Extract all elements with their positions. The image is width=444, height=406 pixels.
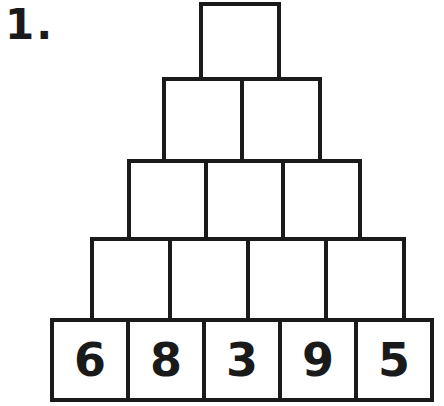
pyramid-cell-r3c2[interactable] — [204, 159, 285, 241]
worksheet-canvas: 1. 6 8 3 9 5 — [0, 0, 444, 406]
pyramid-cell-r5c5: 5 — [354, 318, 434, 402]
problem-number: 1. — [5, 4, 54, 46]
pyramid-cell-r3c3[interactable] — [281, 159, 362, 241]
pyramid-row-1 — [199, 2, 281, 81]
pyramid-cell-r2c2[interactable] — [240, 77, 322, 163]
pyramid-cell-r4c2[interactable] — [168, 237, 250, 322]
pyramid-row-4 — [90, 237, 406, 322]
pyramid-cell-r5c1: 6 — [50, 318, 130, 402]
pyramid-row-5: 6 8 3 9 5 — [50, 318, 434, 402]
pyramid-row-2 — [162, 77, 322, 163]
pyramid-cell-r4c4[interactable] — [324, 237, 406, 322]
pyramid-cell-r5c3: 3 — [202, 318, 282, 402]
pyramid-cell-r2c1[interactable] — [162, 77, 244, 163]
pyramid-cell-r3c1[interactable] — [127, 159, 208, 241]
pyramid-row-3 — [127, 159, 362, 241]
pyramid-cell-r4c3[interactable] — [246, 237, 328, 322]
pyramid-cell-r5c4: 9 — [278, 318, 358, 402]
pyramid-cell-r4c1[interactable] — [90, 237, 172, 322]
pyramid-cell-r1c1[interactable] — [199, 2, 281, 81]
pyramid-cell-r5c2: 8 — [126, 318, 206, 402]
